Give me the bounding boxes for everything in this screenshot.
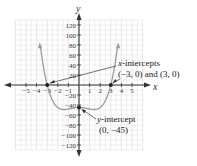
- y-axis-up-arrow-icon: [77, 13, 82, 20]
- y-tick-label: −120: [62, 142, 77, 150]
- y-tick-label: −80: [65, 122, 76, 130]
- y-intercept-title: -intercept: [101, 114, 136, 124]
- x-intercepts-label: x-intercepts: [117, 58, 160, 68]
- x-tick-label: 2: [98, 87, 102, 95]
- y-tick-label: 60: [69, 52, 77, 60]
- y-tick-label: −100: [62, 132, 77, 140]
- y-tick-label: 80: [69, 42, 77, 50]
- x-tick-label: 1: [88, 87, 92, 95]
- y-tick-label: 20: [69, 72, 77, 80]
- x-intercepts-values: (−3, 0) and (3, 0): [118, 69, 180, 79]
- x-axis-left-arrow-icon: [4, 83, 11, 88]
- y-tick-label: −60: [65, 112, 76, 120]
- y-intercept-value: (0, −45): [99, 125, 128, 135]
- y-tick-label: 40: [69, 62, 77, 70]
- x-intercepts-title: -intercepts: [122, 58, 160, 68]
- x-tick-label: −5: [22, 87, 30, 95]
- x-tick-label: −4: [33, 87, 41, 95]
- x-tick-label: 4: [120, 87, 124, 95]
- x-intercept-left-pointer: [50, 66, 116, 83]
- key-point-marker: [77, 106, 81, 110]
- y-tick-label: −20: [65, 92, 76, 100]
- x-axis-right-arrow-icon: [144, 83, 151, 88]
- y-tick-label: 120: [66, 22, 77, 30]
- y-axis-down-arrow-icon: [77, 150, 82, 157]
- key-point-marker: [109, 83, 113, 87]
- x-tick-label: 5: [130, 87, 134, 95]
- polynomial-graph: −5−4−3−2−11234512010080604020−20−40−60−8…: [0, 0, 197, 166]
- y-tick-label: 100: [66, 32, 77, 40]
- pointer-arrowhead-icon: [82, 109, 87, 114]
- x-axis-label: x: [152, 81, 158, 92]
- y-axis-label: y: [75, 3, 81, 14]
- key-point-marker: [45, 83, 49, 87]
- pointer-arrowhead-icon: [49, 80, 55, 84]
- y-intercept-label: y-intercept: [96, 114, 136, 124]
- x-tick-label: −2: [54, 87, 62, 95]
